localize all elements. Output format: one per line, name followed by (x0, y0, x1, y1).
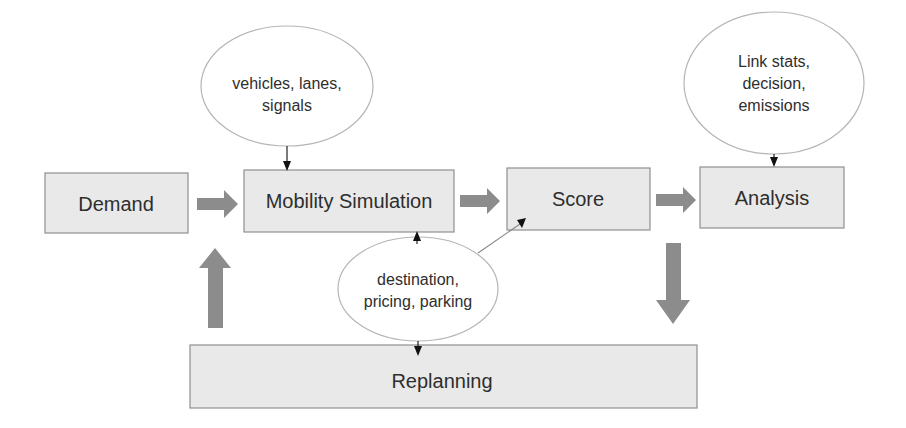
analysis-input-line-2: decision, (742, 75, 805, 92)
arrow-demand-to-simulation (197, 190, 238, 218)
score-label: Score (552, 188, 604, 210)
mobility-simulation-node: Mobility Simulation (244, 170, 454, 232)
arrow-score-to-analysis (656, 187, 696, 213)
network-input-line-1: vehicles, lanes, (232, 75, 341, 92)
score-node: Score (507, 168, 650, 230)
analysis-input-ellipse: Link stats, decision, emissions (684, 12, 864, 154)
flow-diagram: Demand Mobility Simulation Score Analysi… (0, 0, 906, 428)
analysis-node: Analysis (700, 167, 844, 228)
arrow-analysis-input-to-analysis (770, 154, 778, 167)
arrow-replanning-up-to-simulation (199, 248, 231, 328)
network-input-ellipse: vehicles, lanes, signals (201, 26, 373, 146)
arrow-simulation-to-score (460, 188, 500, 214)
analysis-input-line-3: emissions (738, 97, 809, 114)
replanning-label: Replanning (391, 370, 492, 392)
choices-input-ellipse: destination, pricing, parking (338, 237, 498, 341)
arrow-network-to-simulation (283, 146, 291, 171)
demand-node: Demand (45, 173, 188, 233)
analysis-input-line-1: Link stats, (738, 53, 810, 70)
replanning-node: Replanning (190, 345, 697, 408)
arrow-score-down-to-replanning (656, 243, 690, 324)
choices-input-line-2: pricing, parking (364, 293, 473, 310)
mobility-simulation-label: Mobility Simulation (266, 190, 433, 212)
choices-input-line-1: destination, (377, 271, 459, 288)
analysis-label: Analysis (735, 187, 809, 209)
network-input-line-2: signals (262, 97, 312, 114)
demand-label: Demand (78, 193, 154, 215)
